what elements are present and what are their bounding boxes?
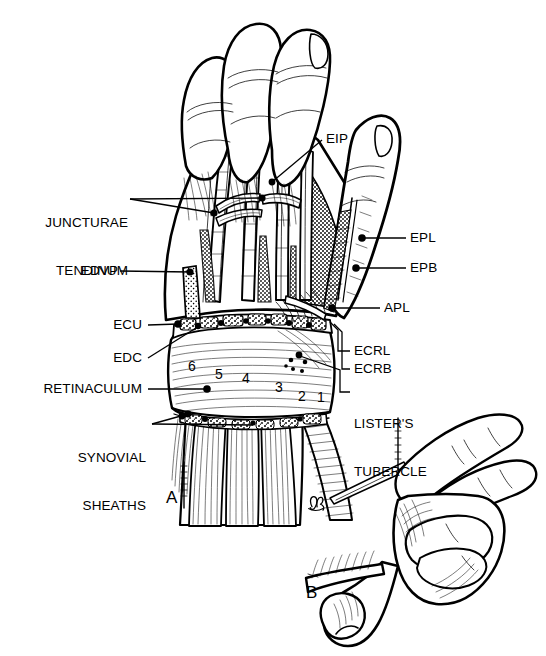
label-retinaculum: RETINACULUM: [18, 381, 142, 397]
label-epb: EPB: [410, 260, 470, 276]
label-ecrl: ECRL: [354, 343, 424, 359]
compartment-number-4: 4: [242, 370, 250, 386]
label-ecu: ECU: [46, 317, 142, 333]
label-synovial-sheaths-line1: SYNOVIAL: [28, 450, 146, 466]
label-listers-line2: TUBERCLE: [354, 464, 464, 480]
label-synovial-sheaths-line2: SHEATHS: [28, 498, 146, 514]
label-juncturae-tendinum: JUNCTURAE TENDINUM: [8, 183, 128, 311]
label-epl: EPL: [410, 230, 470, 246]
artist-signature: [309, 497, 324, 511]
label-juncturae-tendinum-line1: JUNCTURAE: [8, 215, 128, 231]
label-edc: EDC: [46, 350, 142, 366]
panel-label-b: B: [306, 583, 317, 603]
compartment-number-3: 3: [275, 379, 283, 395]
compartment-number-2: 2: [298, 388, 306, 404]
compartment-number-1: 1: [317, 389, 325, 405]
label-ecrb: ECRB: [354, 361, 424, 377]
label-listers-line1: LISTER'S: [354, 416, 464, 432]
label-apl: APL: [384, 300, 444, 316]
label-synovial-sheaths: SYNOVIAL SHEATHS: [28, 418, 146, 546]
anatomical-figure: JUNCTURAE TENDINUM EDVP ECU EDC RETINACU…: [0, 0, 546, 656]
compartment-number-6: 6: [188, 358, 196, 374]
label-edvp: EDVP: [18, 263, 118, 279]
label-eip: EIP: [326, 131, 386, 147]
compartment-number-5: 5: [215, 366, 223, 382]
panel-label-a: A: [166, 488, 177, 508]
label-listers-tubercle: LISTER'S TUBERCLE: [354, 384, 464, 512]
